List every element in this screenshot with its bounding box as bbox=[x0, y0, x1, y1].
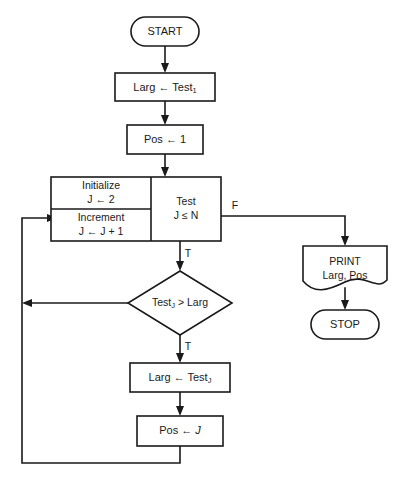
flowchart-svg: START Larg ← Test1 Pos ← 1 Initialize J … bbox=[0, 0, 403, 480]
node-init-larg[interactable]: Larg ← Test1 bbox=[115, 73, 215, 101]
connector-print-to-stop bbox=[341, 288, 349, 310]
node-init-pos[interactable]: Pos ← 1 bbox=[127, 125, 203, 154]
branch-label-test-false: F bbox=[232, 199, 238, 211]
node-stop[interactable]: STOP bbox=[311, 310, 379, 339]
node-test-loop-title: Test bbox=[176, 195, 195, 207]
node-set-larg-label: Larg ← TestJ bbox=[149, 371, 212, 385]
node-test-loop-body: J ≤ N bbox=[174, 209, 198, 221]
node-start-label: START bbox=[147, 25, 182, 37]
branch-label-decision-true: T bbox=[185, 340, 192, 352]
node-decision[interactable]: TestJ > Larg bbox=[128, 271, 232, 335]
node-initialize-title: Initialize bbox=[82, 179, 120, 191]
node-increment-title: Increment bbox=[78, 211, 125, 223]
node-increment-body: J ← J + 1 bbox=[79, 225, 124, 237]
node-set-pos-label: Pos ← J bbox=[159, 424, 201, 436]
connector-test-true-to-decision bbox=[176, 241, 184, 271]
node-set-larg[interactable]: Larg ← TestJ bbox=[130, 363, 230, 392]
flowchart-canvas: START Larg ← Test1 Pos ← 1 Initialize J … bbox=[0, 0, 403, 480]
connector-decision-false-to-rail bbox=[22, 299, 128, 307]
node-start[interactable]: START bbox=[131, 17, 199, 46]
connector-start-to-init-larg bbox=[161, 46, 169, 73]
node-init-larg-label: Larg ← Test1 bbox=[133, 81, 196, 95]
node-set-pos[interactable]: Pos ← J bbox=[137, 416, 223, 446]
node-print-line1: PRINT bbox=[329, 255, 361, 267]
connector-init-pos-to-loop bbox=[161, 154, 169, 177]
connector-init-larg-to-init-pos bbox=[161, 101, 169, 125]
node-init-pos-label: Pos ← 1 bbox=[144, 133, 186, 145]
connector-decision-true-to-set-larg bbox=[176, 335, 184, 363]
node-print-line2: Larg, Pos bbox=[323, 269, 368, 281]
connector-test-false-to-print bbox=[221, 216, 349, 246]
node-print[interactable]: PRINT Larg, Pos bbox=[303, 246, 387, 290]
branch-label-test-true: T bbox=[185, 247, 192, 259]
node-stop-label: STOP bbox=[330, 318, 360, 330]
connector-set-larg-to-set-pos bbox=[176, 392, 184, 416]
node-initialize-body: J ← 2 bbox=[87, 193, 115, 205]
